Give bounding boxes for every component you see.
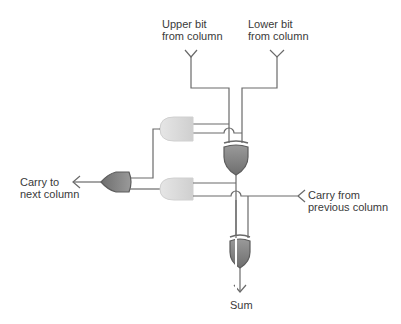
sum-label: Sum	[230, 299, 253, 311]
upper-bit-label: Upper bit from column	[162, 18, 223, 42]
circuit-canvas	[0, 0, 401, 324]
lower-bit-label: Lower bit from column	[248, 18, 309, 42]
or-gate-icon	[101, 172, 131, 192]
lower-xor-gate-icon	[230, 235, 250, 268]
carry-in-wire	[248, 190, 305, 238]
lower-bit-wire	[242, 50, 284, 143]
lower-and-gate-icon	[160, 178, 193, 200]
upper-and-to-or-wire	[130, 129, 160, 178]
upper-xor-gate-icon	[224, 141, 248, 175]
carry-in-label: Carry from previous column	[308, 189, 388, 213]
carry-out-label: Carry to next column	[20, 176, 79, 200]
upper-and-inputs	[191, 124, 242, 133]
lower-and-inputs	[193, 183, 298, 196]
